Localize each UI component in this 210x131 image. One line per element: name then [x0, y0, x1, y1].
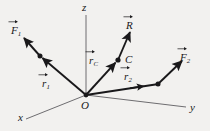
- r2-vector-midhead: [130, 87, 141, 89]
- origin-dot: [84, 93, 89, 98]
- point-p1-dot: [38, 54, 43, 59]
- rc-label-sub: C: [93, 60, 98, 67]
- vector-diagram-figure: z x y O C F 1 F 2: [0, 0, 210, 131]
- f2-vector-accent-wrap: F: [180, 52, 187, 63]
- f2-label-sub: 2: [187, 57, 190, 64]
- axis-group: [26, 15, 186, 119]
- resultant-vector-label: R: [126, 20, 133, 31]
- f1-label-sub: 1: [18, 30, 21, 37]
- origin-label: O: [81, 100, 89, 111]
- position-vector-group: [43, 58, 158, 95]
- point-c-dot: [115, 57, 120, 62]
- f1-vector-accent-wrap: F: [11, 25, 18, 36]
- r1-vector-label: r 1: [42, 78, 50, 89]
- y-axis-label: y: [190, 102, 195, 113]
- f1-label-base: F: [11, 25, 18, 36]
- point-c-label: C: [125, 54, 132, 65]
- f2-label-base: F: [180, 52, 187, 63]
- r2-vector-line: [86, 84, 157, 95]
- y-axis-line: [86, 95, 186, 107]
- f2-vector-label: F 2: [180, 52, 190, 63]
- application-point-group: [38, 54, 161, 98]
- f2-vector-line: [158, 61, 182, 84]
- rc-vector-label: r C: [89, 55, 98, 66]
- x-axis-line: [26, 95, 86, 119]
- r-label-base: R: [126, 20, 133, 31]
- vector-diagram-canvas: [0, 0, 210, 131]
- r2-vector-label: r 2: [124, 71, 132, 82]
- z-axis-label: z: [82, 2, 86, 13]
- x-axis-label: x: [18, 112, 23, 123]
- rc-vector-line: [86, 63, 116, 95]
- r-vector-accent-wrap: R: [126, 20, 133, 31]
- r2-label-sub: 2: [128, 76, 131, 83]
- r1-label-sub: 1: [46, 83, 49, 90]
- f1-vector-label: F 1: [11, 25, 21, 36]
- f1-vector-line: [24, 38, 40, 56]
- point-p2-dot: [156, 82, 161, 87]
